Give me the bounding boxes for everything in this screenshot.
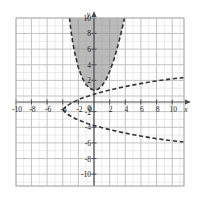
y-axis-label: y [86,10,91,19]
x-tick-label: 6 [140,105,144,114]
x-tick-label: -8 [29,105,35,114]
graph-screenshot: -10 -8 -6 -4 -2 0 2 4 6 8 10 10 8 6 4 2 … [0,0,201,199]
coordinate-plane-figure: -10 -8 -6 -4 -2 0 2 4 6 8 10 10 8 6 4 2 … [0,0,201,199]
x-tick-label: 10 [169,105,177,114]
y-tick-label: -4 [85,123,91,132]
y-tick-label: -6 [85,139,91,148]
x-tick-label: 4 [124,105,128,114]
x-tick-label: 2 [109,105,113,114]
y-tick-label: 2 [87,76,91,85]
y-tick-label: 6 [87,45,91,54]
y-tick-label: 4 [87,61,91,70]
y-tick-label: 8 [87,29,91,38]
x-tick-label: 8 [156,105,160,114]
x-tick-label: -6 [45,105,51,114]
x-axis-label: x [183,105,188,114]
x-tick-label: -10 [12,105,22,114]
y-tick-label: -10 [81,170,91,179]
y-tick-label: -8 [85,155,91,164]
y-axis-arrow-icon [91,11,96,17]
x-tick-label: -2 [76,105,82,114]
x-tick-label: -4 [61,105,67,114]
y-tick-label: -2 [85,108,91,117]
x-axis-arrow-icon [185,99,191,104]
